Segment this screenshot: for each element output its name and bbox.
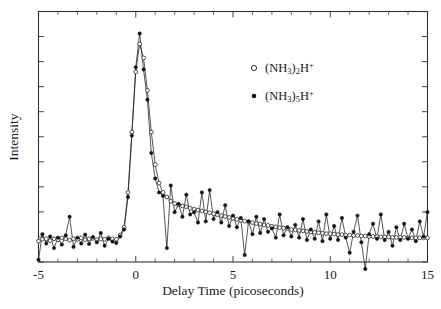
x-axis-tick-labels: -5051015 — [33, 267, 434, 282]
chart-legend: (NH3)2H+ (NH3)5H+ — [243, 54, 373, 110]
data-point-marker — [64, 237, 68, 241]
data-point-marker — [149, 130, 153, 134]
data-point-marker — [150, 151, 153, 154]
data-point-marker — [161, 191, 165, 195]
data-point-marker — [254, 222, 258, 226]
data-point-marker — [200, 191, 203, 194]
data-point-marker — [224, 203, 227, 206]
data-point-marker — [278, 213, 281, 216]
data-point-marker — [294, 223, 297, 226]
y-axis-title: Intensity — [6, 113, 21, 160]
data-point-marker — [83, 238, 87, 242]
data-point-marker — [76, 236, 79, 239]
data-point-marker — [169, 184, 172, 187]
data-point-marker — [181, 215, 184, 218]
data-point-marker — [375, 237, 378, 240]
data-point-marker — [235, 217, 239, 221]
data-point-marker — [220, 221, 223, 224]
data-point-marker — [37, 258, 40, 261]
data-point-marker — [239, 216, 242, 219]
data-point-marker — [95, 241, 98, 244]
data-point-marker — [157, 191, 160, 194]
data-point-marker — [332, 232, 336, 236]
data-point-marker — [40, 237, 44, 241]
data-point-marker — [189, 213, 192, 216]
data-point-marker — [363, 234, 367, 238]
data-point-marker — [379, 235, 383, 239]
data-point-marker — [185, 193, 188, 196]
data-point-marker — [142, 68, 145, 71]
data-point-marker — [83, 233, 86, 236]
data-point-marker — [301, 217, 304, 220]
data-point-marker — [52, 237, 56, 241]
data-point-marker — [208, 211, 212, 215]
data-point-marker — [79, 236, 83, 240]
data-point-marker — [192, 210, 195, 213]
data-point-marker — [208, 188, 211, 191]
data-point-marker — [359, 234, 363, 238]
data-point-marker — [52, 246, 55, 249]
data-point-marker — [68, 215, 71, 218]
data-point-marker — [321, 231, 325, 235]
data-point-marker — [72, 237, 76, 241]
data-point-marker — [243, 219, 247, 223]
data-point-marker — [212, 212, 216, 216]
data-point-marker — [219, 214, 223, 218]
data-point-marker — [44, 237, 48, 241]
data-point-marker — [173, 202, 177, 206]
data-point-marker — [406, 237, 409, 240]
x-axis-title: Delay Time (picoseconds) — [162, 283, 304, 298]
data-point-marker — [418, 220, 421, 223]
x-tick-label: 0 — [133, 267, 140, 282]
data-point-marker — [293, 228, 297, 232]
data-point-marker — [391, 236, 395, 240]
data-point-marker — [216, 210, 219, 213]
data-point-marker — [426, 236, 430, 240]
data-point-marker — [173, 210, 176, 213]
data-point-marker — [410, 228, 413, 231]
data-point-marker — [364, 267, 367, 270]
data-point-marker — [340, 233, 344, 237]
data-point-marker — [336, 238, 339, 241]
data-point-marker — [138, 42, 142, 46]
data-point-marker — [122, 228, 125, 231]
open-circle-icon — [243, 63, 265, 73]
data-point-marker — [161, 194, 164, 197]
data-point-marker — [317, 220, 320, 223]
filled-circle-icon — [243, 91, 265, 101]
data-point-marker — [48, 235, 51, 238]
data-point-marker — [402, 222, 405, 225]
data-point-marker — [200, 209, 204, 213]
data-point-marker — [328, 232, 332, 236]
data-point-marker — [305, 229, 309, 233]
data-point-marker — [91, 235, 94, 238]
data-point-marker — [262, 217, 265, 220]
data-point-marker — [410, 236, 414, 240]
data-point-marker — [251, 221, 255, 225]
data-point-marker — [336, 233, 340, 237]
data-point-marker — [87, 237, 91, 241]
data-point-marker — [126, 191, 130, 195]
data-point-marker — [56, 236, 59, 239]
data-point-marker — [340, 216, 343, 219]
data-point-marker — [270, 227, 273, 230]
data-point-marker — [231, 214, 234, 217]
data-point-marker — [348, 251, 351, 254]
data-point-marker — [146, 98, 149, 101]
data-point-marker — [367, 232, 370, 235]
data-point-marker — [325, 213, 328, 216]
data-point-marker — [227, 224, 230, 227]
legend-label-nh3-2h: (NH3)2H+ — [265, 61, 314, 76]
data-point-marker — [309, 228, 312, 231]
legend-item-nh3-2h: (NH3)2H+ — [243, 54, 373, 82]
legend-label-nh3-5h: (NH3)5H+ — [265, 89, 314, 104]
data-point-marker — [247, 220, 250, 223]
data-point-marker — [379, 213, 382, 216]
data-point-marker — [177, 202, 180, 205]
data-point-marker — [422, 235, 425, 238]
data-point-marker — [87, 242, 90, 245]
data-point-marker — [356, 214, 359, 217]
data-point-marker — [317, 231, 321, 235]
data-point-marker — [223, 215, 227, 219]
data-point-marker — [165, 246, 168, 249]
